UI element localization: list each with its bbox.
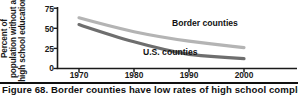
x-tick-1980: 1980	[125, 71, 144, 79]
x-tick-1970: 1970	[70, 71, 89, 79]
series-label-border-counties: Border counties	[172, 19, 238, 28]
figure-caption: Figure 68. Border counties have low rate…	[2, 85, 298, 95]
series-label-us-counties: U.S. counties	[143, 48, 197, 57]
figure-container: Percent of population without a high sch…	[0, 0, 298, 95]
x-tick-1990: 1990	[180, 71, 199, 79]
plot-svg	[0, 0, 298, 80]
caption-divider	[0, 82, 298, 84]
chart-plot-area: Percent of population without a high sch…	[0, 0, 298, 80]
x-tick-2000: 2000	[235, 71, 254, 79]
